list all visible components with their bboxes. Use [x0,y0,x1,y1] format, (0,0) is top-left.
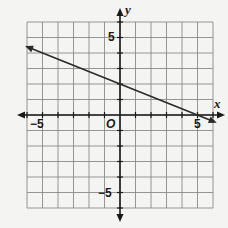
coordinate-plane: x y O −5 5 5 −5 [0,0,228,228]
x-tick-label-neg5: −5 [30,117,44,131]
axes [17,8,225,222]
y-tick-label-neg5: −5 [98,186,112,200]
x-axis-arrow-right-icon [217,112,225,119]
axis-labels: x y O −5 5 5 −5 [30,2,221,200]
line-arrow-start-icon [25,46,34,52]
y-axis-arrow-down-icon [117,214,124,222]
origin-label: O [106,117,116,131]
line-arrow-end-icon [208,116,217,122]
y-axis-arrow-up-icon [117,8,124,16]
x-tick-label-5: 5 [194,117,201,131]
x-axis-arrow-left-icon [17,112,25,119]
y-axis-label: y [123,2,131,17]
x-axis-label: x [213,96,221,111]
y-tick-label-5: 5 [108,30,115,44]
